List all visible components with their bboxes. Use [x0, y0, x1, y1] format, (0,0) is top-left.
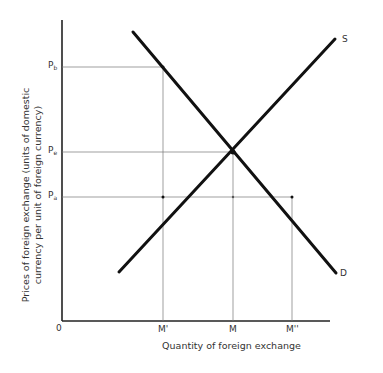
demand-label: D — [340, 268, 347, 278]
supply-pa-point — [162, 196, 165, 199]
supply-curve — [119, 39, 335, 272]
supply-label: S — [342, 34, 348, 44]
m-label: M — [229, 324, 237, 334]
y-axis-title: Prices of foreign exchange (units of dom… — [2, 80, 62, 310]
m-double-prime-label: M'' — [286, 324, 299, 334]
origin-label: 0 — [56, 323, 62, 333]
x-axis-title: Quantity of foreign exchange — [0, 340, 383, 351]
demand-pb-point — [162, 66, 165, 69]
pb-label: Pb — [48, 60, 57, 71]
m-pa-point — [232, 196, 234, 198]
demand-pa-point — [291, 196, 294, 199]
y-axis-title-line1: Prices of foreign exchange (units of dom… — [20, 88, 32, 303]
equilibrium-point — [231, 150, 236, 155]
m-prime-label: M' — [158, 324, 168, 334]
y-axis-title-line2: currency per unit of foreign currency) — [32, 88, 44, 303]
